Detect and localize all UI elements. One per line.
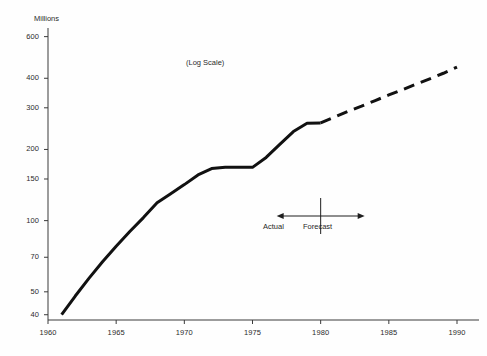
y-tick-label: 400 [9, 73, 39, 82]
x-tick-label: 1965 [96, 328, 136, 337]
series-line-forecast [321, 67, 457, 123]
actual-arrow-label: Actual [263, 222, 284, 231]
forecast-arrow-label: Forecast [303, 222, 332, 231]
y-tick-label: 200 [9, 144, 39, 153]
x-tick-label: 1975 [233, 328, 273, 337]
y-tick-label: 70 [9, 252, 39, 261]
y-tick-label: 150 [9, 174, 39, 183]
x-tick-label: 1990 [437, 328, 477, 337]
x-tick-label: 1970 [164, 328, 204, 337]
y-axis-title: Millions [34, 14, 59, 23]
y-tick-label: 40 [9, 310, 39, 319]
y-tick-label: 50 [9, 287, 39, 296]
chart-container: Millions (Log Scale) Actual Forecast 600… [0, 0, 487, 356]
x-tick-label: 1960 [28, 328, 68, 337]
y-tick-label: 100 [9, 216, 39, 225]
chart-plot-area [0, 0, 487, 356]
data-series-group [62, 67, 457, 315]
x-tick-label: 1985 [369, 328, 409, 337]
x-tick-label: 1980 [301, 328, 341, 337]
y-tick-label: 600 [9, 32, 39, 41]
series-line-actual [62, 123, 321, 315]
y-tick-label: 300 [9, 103, 39, 112]
axes-group [44, 28, 479, 324]
log-scale-note: (Log Scale) [186, 58, 224, 67]
